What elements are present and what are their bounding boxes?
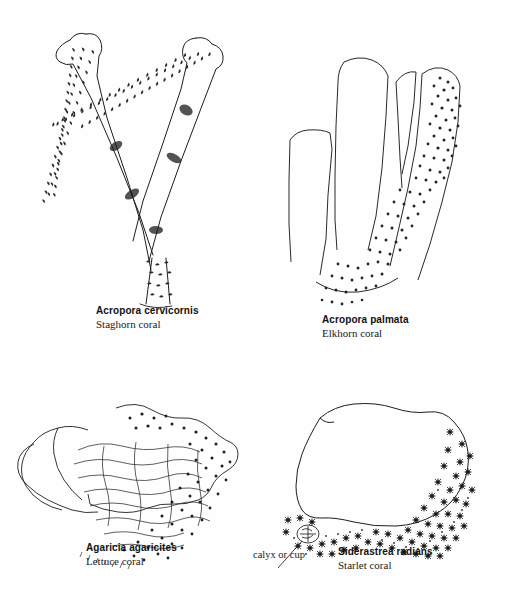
scientific-name: Agaricia agaricites — [86, 542, 177, 554]
panel-staghorn: Acropora cervicornis Staghorn coral — [28, 18, 248, 313]
common-name: Lettuce coral — [86, 555, 177, 568]
scientific-name: Siderastrea radians — [338, 546, 433, 558]
common-name: Starlet coral — [338, 559, 433, 572]
caption-elkhorn: Acropora palmata Elkhorn coral — [322, 314, 409, 340]
coral-branching-icon — [28, 18, 248, 313]
panel-lettuce: Agaricia agaricites Lettuce coral — [8, 392, 243, 577]
common-name: Elkhorn coral — [322, 327, 409, 340]
scientific-name: Acropora cervicornis — [96, 305, 199, 317]
coral-plate-icon — [288, 52, 508, 314]
calyx-callout-label: calyx or cup — [253, 549, 305, 560]
common-name: Staghorn coral — [96, 318, 199, 331]
panel-elkhorn: Acropora palmata Elkhorn coral — [288, 52, 508, 314]
scientific-name: Acropora palmata — [322, 314, 409, 326]
caption-staghorn: Acropora cervicornis Staghorn coral — [96, 305, 199, 331]
coral-species-figure: Acropora cervicornis Staghorn coral — [0, 0, 515, 602]
caption-lettuce: Agaricia agaricites Lettuce coral — [86, 542, 177, 568]
caption-starlet: Siderastrea radians Starlet coral — [338, 546, 433, 572]
